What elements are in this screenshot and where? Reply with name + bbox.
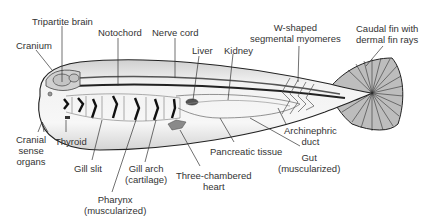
label-gill-arch: Gill arch(cartilage) [125, 163, 167, 185]
label-myomeres: W-shapedsegmental myomeres [250, 22, 341, 44]
label-kidney: Kidney [224, 45, 253, 56]
liver [186, 99, 198, 105]
label-archinephric-duct: Archinephricduct [284, 125, 337, 147]
label-pharynx: Pharynx(muscularized) [84, 194, 146, 216]
label-notochord: Notochord [98, 27, 142, 38]
label-liver: Liver [192, 45, 213, 56]
label-cranium: Cranium [16, 40, 52, 51]
label-gill-slit: Gill slit [74, 163, 102, 174]
label-thyroid: Thyroid [55, 136, 87, 147]
label-gut: Gut(muscularized) [278, 152, 340, 174]
label-nerve-cord: Nerve cord [152, 27, 198, 38]
label-pancreatic-tissue: Pancreatic tissue [210, 146, 282, 157]
label-cranial-sense-organs: Cranialsenseorgans [16, 134, 46, 167]
label-caudal-fin: Caudal fin withdermal fin rays [356, 23, 418, 45]
label-tripartite-brain: Tripartite brain [32, 16, 93, 27]
label-heart: Three-chamberedheart [176, 170, 252, 192]
thyroid [65, 116, 70, 119]
